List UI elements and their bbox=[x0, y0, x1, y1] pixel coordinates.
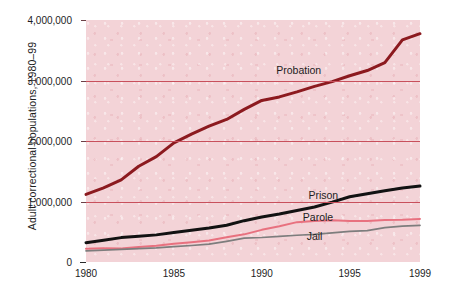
y-tick-label: 4,000,000 bbox=[28, 15, 73, 26]
x-tick-label: 1980 bbox=[75, 268, 97, 279]
series-label-prison: Prison bbox=[308, 189, 338, 201]
series-line-probation bbox=[86, 34, 420, 195]
y-axis-labels: 01,000,0002,000,0003,000,0004,000,000 bbox=[0, 0, 80, 300]
y-tick-label: 3,000,000 bbox=[28, 75, 73, 86]
x-tick-label: 1990 bbox=[251, 268, 273, 279]
series-line-parole bbox=[86, 219, 420, 249]
x-axis-labels: 19801985199019951999 bbox=[0, 266, 449, 288]
gridline bbox=[86, 81, 420, 82]
x-tick-label: 1995 bbox=[339, 268, 361, 279]
series-line-prison bbox=[86, 186, 420, 243]
y-tick-label: 2,000,000 bbox=[28, 136, 73, 147]
chart-figure: Adult correctional populations, 1980–99 … bbox=[0, 0, 449, 300]
y-tick-label: 1,000,000 bbox=[28, 196, 73, 207]
gridline bbox=[86, 202, 420, 203]
x-tick-label: 1999 bbox=[409, 268, 431, 279]
series-label-probation: Probation bbox=[276, 64, 321, 76]
gridline bbox=[86, 141, 420, 142]
series-label-parole: Parole bbox=[303, 211, 333, 223]
series-label-jail: Jail bbox=[307, 230, 323, 242]
plot-area bbox=[86, 20, 420, 262]
x-tick-label: 1985 bbox=[163, 268, 185, 279]
x-axis-origin-tick bbox=[80, 262, 86, 263]
